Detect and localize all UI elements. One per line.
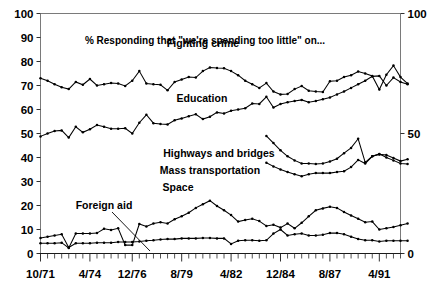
data-point: [385, 73, 388, 76]
x-tick-label: 12/84: [266, 268, 295, 280]
data-point: [315, 100, 318, 103]
x-tick-label: 4/82: [220, 268, 242, 280]
data-point: [53, 83, 56, 86]
data-point: [293, 100, 296, 103]
data-point: [152, 239, 155, 242]
y-tick-label-right: 100: [408, 8, 427, 20]
data-point: [322, 234, 325, 237]
data-point: [124, 85, 127, 88]
data-point: [406, 83, 409, 86]
data-point: [89, 78, 92, 81]
data-point: [117, 82, 120, 85]
data-point: [336, 171, 339, 174]
data-point: [371, 239, 374, 242]
data-point: [357, 70, 360, 73]
data-point: [399, 240, 402, 243]
data-point: [202, 118, 205, 121]
data-point: [336, 79, 339, 82]
data-point: [350, 166, 353, 169]
data-point: [202, 203, 205, 206]
data-point: [322, 91, 325, 94]
data-point: [145, 225, 148, 228]
data-point: [307, 234, 310, 237]
data-point: [399, 76, 402, 79]
data-point: [103, 228, 106, 231]
data-point: [103, 241, 106, 244]
data-point: [357, 217, 360, 220]
series-annotation-label: Mass transportation: [160, 164, 260, 176]
x-tick-label: 4/91: [368, 268, 391, 280]
data-point: [82, 84, 85, 87]
data-point: [343, 90, 346, 93]
data-point: [406, 240, 409, 243]
data-point: [82, 242, 85, 245]
data-point: [272, 142, 275, 145]
data-point: [322, 162, 325, 165]
data-point: [131, 132, 134, 135]
data-point: [46, 132, 49, 135]
data-point: [110, 127, 113, 130]
data-point: [124, 127, 127, 130]
data-point: [279, 149, 282, 152]
data-point: [293, 88, 296, 91]
data-point: [89, 242, 92, 245]
x-axis-tick-labels: 10/714/7412/768/794/8212/848/874/91: [26, 268, 391, 280]
data-point: [300, 222, 303, 225]
data-point: [350, 235, 353, 238]
data-point: [166, 238, 169, 241]
data-point: [82, 232, 85, 235]
data-point: [209, 199, 212, 202]
data-point: [96, 84, 99, 87]
data-point: [258, 87, 261, 90]
series-education: [39, 75, 409, 139]
data-point: [251, 239, 254, 242]
series-space: [39, 228, 409, 249]
data-point: [251, 83, 254, 86]
data-point: [173, 238, 176, 241]
data-point: [378, 153, 381, 156]
data-point: [75, 126, 78, 129]
y-axis-right-ticks: 050100: [401, 8, 427, 260]
x-tick-label: 8/87: [319, 268, 341, 280]
data-point: [251, 217, 254, 220]
data-point: [364, 79, 367, 82]
data-point: [300, 162, 303, 165]
x-tick-label: 8/79: [170, 268, 192, 280]
data-point: [152, 122, 155, 125]
data-point: [322, 172, 325, 175]
data-point: [216, 205, 219, 208]
chart-title-group: % Responding that "we're spending too li…: [85, 35, 325, 46]
data-point: [145, 240, 148, 243]
data-point: [67, 88, 70, 91]
series-annotation-label: Space: [163, 181, 194, 193]
data-point: [138, 121, 141, 124]
data-point: [392, 157, 395, 160]
data-point: [110, 229, 113, 232]
data-point: [265, 162, 268, 165]
data-point: [293, 233, 296, 236]
data-point: [244, 79, 247, 82]
data-point: [385, 154, 388, 157]
data-point: [75, 242, 78, 245]
data-point: [307, 173, 310, 176]
data-point: [60, 241, 63, 244]
data-point: [371, 75, 374, 78]
data-point: [364, 239, 367, 242]
data-point: [173, 119, 176, 122]
data-point: [180, 117, 183, 120]
data-point: [385, 156, 388, 159]
data-point: [223, 112, 226, 115]
data-point: [399, 162, 402, 165]
data-point: [350, 74, 353, 77]
data-point: [230, 214, 233, 217]
data-point: [399, 81, 402, 84]
data-point: [159, 123, 162, 126]
data-point: [392, 240, 395, 243]
data-point: [357, 238, 360, 241]
data-point: [67, 247, 70, 250]
data-point: [89, 128, 92, 131]
data-point: [279, 103, 282, 106]
data-point: [265, 82, 268, 85]
data-point: [315, 90, 318, 93]
data-point: [230, 109, 233, 112]
